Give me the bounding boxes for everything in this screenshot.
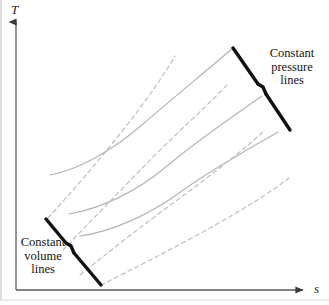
constant-pressure-label: Constant pressure lines bbox=[258, 47, 326, 88]
constant-volume-label-line-2: volume bbox=[6, 250, 80, 264]
constant-volume-label-line-3: lines bbox=[6, 263, 80, 277]
constant-pressure-line-3 bbox=[80, 132, 278, 236]
constant-volume-label: Constant volume lines bbox=[6, 236, 80, 277]
y-axis-label: T bbox=[11, 2, 18, 18]
ts-diagram-figure: Constant volume lines bbox=[0, 0, 329, 305]
constant-volume-line-1 bbox=[48, 56, 175, 218]
constant-pressure-line-1 bbox=[50, 48, 233, 175]
constant-pressure-label-line-1: Constant bbox=[258, 47, 326, 61]
constant-volume-curves bbox=[48, 56, 289, 285]
constant-volume-line-4 bbox=[101, 178, 289, 285]
constant-pressure-label-line-3: lines bbox=[258, 74, 326, 88]
constant-pressure-label-line-2: pressure bbox=[258, 61, 326, 75]
x-axis-label: s bbox=[314, 281, 319, 297]
constant-volume-label-line-1: Constant bbox=[6, 236, 80, 250]
constant-pressure-line-2 bbox=[69, 96, 262, 214]
constant-volume-line-2 bbox=[63, 84, 228, 250]
